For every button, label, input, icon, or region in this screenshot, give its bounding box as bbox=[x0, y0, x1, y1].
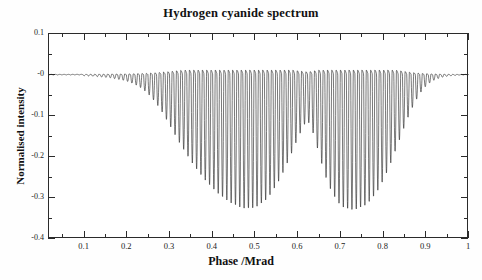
tick-mark bbox=[48, 74, 55, 75]
spectrum-polyline bbox=[49, 70, 469, 209]
tick-mark bbox=[48, 218, 52, 219]
tick-mark bbox=[190, 234, 191, 238]
tick-mark bbox=[461, 238, 468, 239]
tick-mark bbox=[425, 231, 426, 238]
tick-mark bbox=[169, 231, 170, 238]
tick-mark bbox=[62, 33, 63, 37]
tick-mark bbox=[404, 33, 405, 37]
tick-mark bbox=[84, 231, 85, 238]
tick-mark bbox=[48, 177, 52, 178]
tick-mark bbox=[62, 234, 63, 238]
x-tick-label: 0.9 bbox=[420, 241, 431, 251]
tick-mark bbox=[190, 33, 191, 37]
tick-mark bbox=[126, 231, 127, 238]
tick-mark bbox=[464, 54, 468, 55]
tick-mark bbox=[464, 218, 468, 219]
y-tick-label: 0.1 bbox=[6, 28, 44, 37]
tick-mark bbox=[447, 234, 448, 238]
tick-mark bbox=[233, 234, 234, 238]
tick-mark bbox=[84, 33, 85, 40]
y-tick-label: -0 bbox=[6, 69, 44, 78]
tick-mark bbox=[148, 234, 149, 238]
tick-mark bbox=[383, 33, 384, 40]
x-tick-label: 0.1 bbox=[78, 241, 89, 251]
y-tick-label: -0.3 bbox=[6, 192, 44, 201]
tick-mark bbox=[105, 234, 106, 238]
tick-mark bbox=[319, 234, 320, 238]
tick-mark bbox=[48, 136, 52, 137]
tick-mark bbox=[169, 33, 170, 40]
tick-mark bbox=[212, 33, 213, 40]
plot-area bbox=[48, 33, 468, 238]
x-tick-label: 0.6 bbox=[292, 241, 303, 251]
tick-mark bbox=[340, 231, 341, 238]
tick-mark bbox=[126, 33, 127, 40]
tick-mark bbox=[48, 238, 55, 239]
chart-figure: Hydrogen cyanide spectrum Normalised int… bbox=[0, 0, 482, 280]
tick-mark bbox=[105, 33, 106, 37]
tick-mark bbox=[361, 33, 362, 37]
x-tick-label: 0.5 bbox=[249, 241, 260, 251]
tick-mark bbox=[48, 156, 55, 157]
tick-mark bbox=[461, 156, 468, 157]
tick-mark bbox=[212, 231, 213, 238]
tick-mark bbox=[464, 95, 468, 96]
tick-mark bbox=[254, 231, 255, 238]
tick-mark bbox=[48, 54, 52, 55]
tick-mark bbox=[340, 33, 341, 40]
tick-mark bbox=[461, 33, 468, 34]
tick-mark bbox=[425, 33, 426, 40]
y-axis-title: Normalised intensity bbox=[14, 87, 26, 184]
tick-mark bbox=[461, 74, 468, 75]
tick-mark bbox=[297, 231, 298, 238]
y-axis-title-container: Normalised intensity bbox=[14, 33, 15, 238]
tick-mark bbox=[461, 197, 468, 198]
y-tick-label: -0.1 bbox=[6, 110, 44, 119]
tick-mark bbox=[464, 177, 468, 178]
tick-mark bbox=[297, 33, 298, 40]
x-tick-label: 0.8 bbox=[377, 241, 388, 251]
tick-mark bbox=[48, 115, 55, 116]
tick-mark bbox=[404, 234, 405, 238]
x-tick-label: 0.3 bbox=[164, 241, 175, 251]
tick-mark bbox=[276, 33, 277, 37]
x-tick-label: 0.7 bbox=[335, 241, 346, 251]
tick-mark bbox=[148, 33, 149, 37]
tick-mark bbox=[233, 33, 234, 37]
x-tick-label: 1 bbox=[466, 241, 470, 251]
y-tick-label: -0.4 bbox=[6, 233, 44, 242]
y-tick-label: -0.2 bbox=[6, 151, 44, 160]
tick-mark bbox=[461, 115, 468, 116]
page-title: Hydrogen cyanide spectrum bbox=[0, 6, 482, 21]
tick-mark bbox=[276, 234, 277, 238]
tick-mark bbox=[468, 33, 469, 40]
tick-mark bbox=[254, 33, 255, 40]
tick-mark bbox=[468, 231, 469, 238]
tick-mark bbox=[361, 234, 362, 238]
tick-mark bbox=[48, 197, 55, 198]
tick-mark bbox=[464, 136, 468, 137]
x-axis-title: Phase /Mrad bbox=[0, 254, 482, 269]
tick-mark bbox=[383, 231, 384, 238]
tick-mark bbox=[48, 33, 55, 34]
x-tick-label: 0.4 bbox=[206, 241, 217, 251]
tick-mark bbox=[48, 95, 52, 96]
x-tick-label: 0.2 bbox=[121, 241, 132, 251]
tick-mark bbox=[319, 33, 320, 37]
tick-mark bbox=[447, 33, 448, 37]
spectrum-trace bbox=[49, 34, 469, 239]
